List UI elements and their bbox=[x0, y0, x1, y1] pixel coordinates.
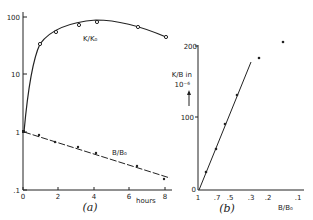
points-b-over-b0 bbox=[22, 130, 165, 180]
panel-a-xtick-2: 2 bbox=[56, 193, 60, 201]
panel-b-label: (b) bbox=[219, 202, 235, 215]
panel-a-ytick-10: 10 bbox=[11, 71, 20, 79]
panel-a-xtick-8: 8 bbox=[163, 193, 167, 201]
panel-b-xlabel: B/B₀ bbox=[278, 204, 293, 212]
panel-a: 100 10 1 .1 0 2 4 6 8 hours (a) K/K₀ bbox=[7, 12, 172, 214]
panel-b-xtick-2: .2 bbox=[265, 194, 272, 202]
panel-b-fit-line bbox=[199, 62, 251, 190]
panel-b-xtick-01: .1 bbox=[295, 194, 302, 202]
panel-a-label: (a) bbox=[82, 201, 97, 214]
panel-a-xlabel: hours bbox=[136, 197, 156, 205]
panel-a-xtick-0: 0 bbox=[21, 193, 25, 201]
panel-b-xtick-1: 1 bbox=[196, 194, 200, 202]
curve-label-k-over-k0: K/K₀ bbox=[83, 35, 98, 43]
panel-b-points bbox=[205, 41, 285, 174]
panel-a-xtick-6: 6 bbox=[127, 193, 132, 201]
panel-b-xtick-3: .3 bbox=[248, 194, 255, 202]
curve-label-b-over-b0: B/B₀ bbox=[112, 149, 127, 157]
panel-a-ytick-100: 100 bbox=[7, 14, 20, 22]
curve-b-over-b0 bbox=[24, 132, 170, 178]
panel-b-ylabel-line1: K/B in bbox=[172, 71, 192, 79]
panel-b-xtick-5: .5 bbox=[227, 194, 234, 202]
panel-b: 200 100 0 K/B in 10⁻⁶ 1 .7 .5 .3 .2 .1 B… bbox=[172, 41, 304, 215]
panel-a-ytick-1: 1 bbox=[16, 129, 20, 137]
panel-b-ytick-100: 100 bbox=[181, 114, 194, 122]
panel-b-ytick-200: 200 bbox=[184, 43, 197, 51]
panel-a-ytick-01: .1 bbox=[13, 187, 20, 195]
panel-a-xtick-4: 4 bbox=[92, 193, 97, 201]
panel-b-xtick-7: .7 bbox=[214, 194, 221, 202]
points-k-over-k0 bbox=[38, 20, 167, 45]
panel-b-ylabel-line2: 10⁻⁶ bbox=[175, 81, 191, 89]
figure: 100 10 1 .1 0 2 4 6 8 hours (a) K/K₀ bbox=[0, 0, 313, 220]
panel-b-ytick-0: 0 bbox=[192, 186, 196, 194]
